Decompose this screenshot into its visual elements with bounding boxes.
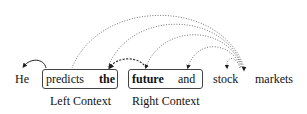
arc-markets-and	[188, 47, 241, 67]
word-future: future	[132, 72, 164, 86]
left-context-label: Left Context	[50, 94, 111, 108]
arc-future-the	[110, 59, 146, 68]
arc-markets-the	[108, 24, 243, 67]
arc-markets-stock	[227, 59, 240, 69]
word-predicts: predicts	[46, 72, 84, 86]
word-markets: markets	[255, 72, 293, 86]
word-he: He	[15, 72, 29, 86]
arc-predicts-he	[24, 60, 46, 68]
arc-markets-predicts	[72, 15, 244, 68]
right-context-label: Right Context	[132, 94, 200, 108]
word-and: and	[178, 72, 195, 86]
word-the: the	[99, 72, 115, 86]
word-stock: stock	[213, 72, 238, 86]
